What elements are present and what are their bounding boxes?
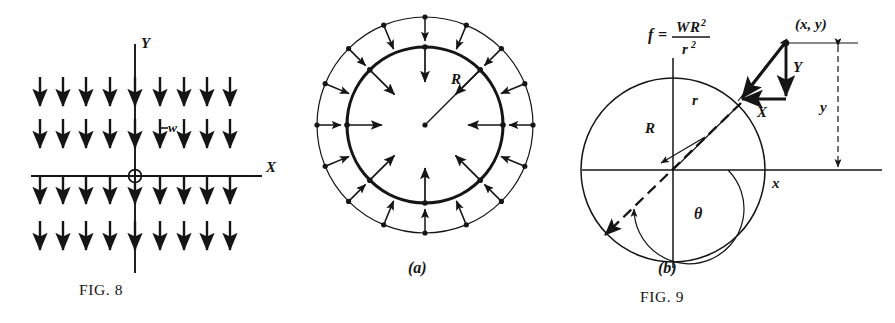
- fig9b-point-label: (x, y): [795, 16, 827, 33]
- fig9b-x-label: x: [771, 175, 780, 191]
- fig9b-r-label: r: [692, 92, 698, 108]
- fig9b-y-label: y: [818, 99, 827, 115]
- fig9a-radius-label: R: [450, 71, 461, 87]
- fig9b-formula-numerator-W: W: [676, 19, 691, 35]
- fig9-caption: FIG. 9: [640, 288, 684, 305]
- fig9b-caption: (b): [658, 259, 677, 277]
- figure-plate: w Y X FIG. 8: [0, 0, 895, 323]
- fig8-load-label: w: [168, 120, 178, 135]
- fig9b-theta-label: θ: [694, 205, 703, 222]
- fig9b-formula-numerator-R: R: [689, 19, 700, 35]
- fig8-caption: FIG. 8: [79, 281, 123, 298]
- fig9b-R-label: R: [644, 120, 655, 136]
- fig9b-formula-numerator-exponent: 2: [700, 17, 706, 28]
- fig9b-X-label: X: [756, 104, 768, 120]
- fig9b-formula-denominator-exponent: 2: [690, 39, 696, 50]
- fig9b-formula-denominator-r: r: [682, 41, 688, 57]
- fig9b-formula-equals: =: [658, 26, 667, 43]
- fig8-x-axis-label: X: [265, 159, 277, 175]
- fig9a-caption: (a): [408, 259, 427, 277]
